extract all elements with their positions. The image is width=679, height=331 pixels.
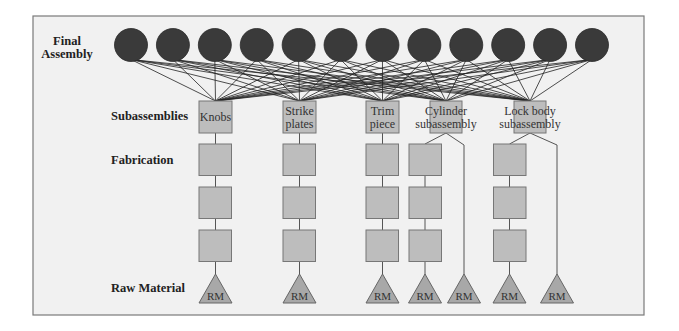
raw-material-label: RM	[374, 290, 391, 302]
final-assembly-node	[198, 29, 231, 62]
final-assembly-node	[240, 29, 273, 62]
final-assembly-node	[408, 29, 441, 62]
row-label-final-assembly-2: Assembly	[41, 47, 93, 61]
fabrication-box	[283, 144, 316, 176]
final-assembly-node	[366, 29, 399, 62]
final-assembly-node	[576, 29, 609, 62]
fabrication-box	[409, 144, 442, 176]
product-structure-diagram: Final Assembly Subassemblies Fabrication…	[0, 0, 679, 331]
subassembly-knobs: Knobs	[199, 101, 232, 133]
fabrication-box	[409, 230, 442, 262]
final-assembly-node	[534, 29, 567, 62]
raw-material-label: RM	[416, 290, 433, 302]
fabrication-box	[283, 230, 316, 262]
row-label-raw-material: Raw Material	[111, 281, 185, 295]
fabrication-box	[283, 187, 316, 219]
fabrication-box	[199, 144, 232, 176]
final-assembly-node	[450, 29, 483, 62]
raw-material-label: RM	[501, 290, 518, 302]
subassembly-label-line1: Lock body	[504, 104, 556, 118]
subassembly-trim-piece: Trim piece	[366, 101, 399, 133]
final-assembly-node	[492, 29, 525, 62]
subassembly-label-line1: Cylinder	[425, 104, 467, 118]
raw-material-label: RM	[291, 290, 308, 302]
subassembly-lock-body: Lock body subassembly	[499, 101, 560, 133]
raw-material-label: RM	[207, 290, 224, 302]
subassembly-label-line2: subassembly	[499, 117, 560, 131]
fabrication-box	[409, 187, 442, 219]
subassembly-label: Knobs	[200, 110, 232, 124]
fabrication-box	[366, 144, 399, 176]
subassembly-label-line1: Strike	[285, 104, 314, 118]
raw-material-label: RM	[548, 290, 565, 302]
subassembly-label-line2: plates	[286, 117, 314, 131]
row-label-fabrication: Fabrication	[111, 153, 174, 167]
fabrication-box	[494, 230, 527, 262]
row-label-subassemblies: Subassemblies	[111, 109, 188, 123]
final-assembly-node	[324, 29, 357, 62]
fabrication-box	[366, 187, 399, 219]
fabrication-box	[199, 230, 232, 262]
subassembly-strike-plates: Strike plates	[283, 101, 316, 133]
subassembly-label-line2: subassembly	[415, 117, 476, 131]
fabrication-box	[494, 187, 527, 219]
fabrication-box	[199, 187, 232, 219]
final-assembly-node	[282, 29, 315, 62]
fabrication-box	[494, 144, 527, 176]
raw-material-label: RM	[455, 290, 472, 302]
final-assembly-node	[156, 29, 189, 62]
subassembly-label-line2: piece	[370, 117, 395, 131]
row-label-final-assembly-1: Final	[53, 34, 81, 48]
final-assembly-node	[115, 29, 148, 62]
subassembly-label-line1: Trim	[371, 104, 395, 118]
fabrication-box	[366, 230, 399, 262]
